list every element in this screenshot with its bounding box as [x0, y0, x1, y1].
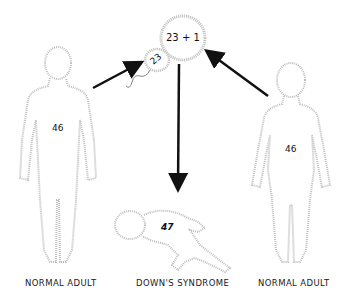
child-figure [115, 211, 230, 272]
caption-left-adult: NORMAL ADULT [25, 278, 97, 288]
caption-child: DOWN'S SYNDROME [136, 278, 229, 288]
caption-right-adult: NORMAL ADULT [258, 278, 330, 288]
right-adult-chromosome-count: 46 [285, 144, 296, 154]
arrow-female-to-egg [208, 52, 268, 96]
arrow-male-to-sperm [93, 63, 140, 88]
left-adult-chromosome-count: 46 [52, 123, 63, 133]
arrow-egg-to-child [178, 64, 179, 188]
egg-cell-label: 23 + 1 [166, 32, 200, 43]
male-adult-figure [20, 47, 96, 262]
child-chromosome-count: 47 [161, 222, 174, 232]
